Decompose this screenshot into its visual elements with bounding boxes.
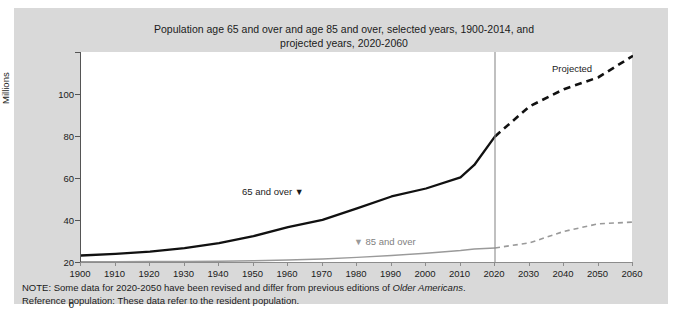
y-axis-title: Millions <box>0 72 11 104</box>
chart-title-line-1: Population age 65 and over and age 85 an… <box>154 23 534 35</box>
series-line-85-and-over-projected <box>495 222 633 248</box>
plot-area <box>80 52 632 262</box>
chart-title: Population age 65 and over and age 85 an… <box>74 22 614 50</box>
y-axis-tick-mark <box>75 220 80 221</box>
x-axis-tick-mark <box>184 262 185 266</box>
triangle-down-icon: ▼ <box>295 187 304 197</box>
x-axis-tick-mark <box>218 262 219 266</box>
x-axis-tick-mark <box>494 262 495 266</box>
y-axis-tick-mark <box>75 136 80 137</box>
x-axis-tick-mark <box>598 262 599 266</box>
x-axis-tick-mark <box>115 262 116 266</box>
chart-plot-svg <box>81 52 633 262</box>
y-axis-tick-label: 20 <box>44 257 74 268</box>
chart-notes: NOTE: Some data for 2020-2050 have been … <box>22 282 662 307</box>
y-axis-tick-label: 100 <box>44 89 74 100</box>
series-annotation-85-and-over: ▼ 85 and over <box>354 236 416 247</box>
x-axis-tick-mark <box>322 262 323 266</box>
x-axis-tick-mark <box>356 262 357 266</box>
x-axis-tick-label: 2060 <box>612 268 652 279</box>
x-axis-tick-mark <box>425 262 426 266</box>
series-layer <box>81 56 633 262</box>
projected-region-label: Projected <box>552 63 592 74</box>
y-axis-tick-labels: 020406080100 <box>44 52 74 262</box>
note-line-1-prefix: NOTE: Some data for 2020-2050 have been … <box>22 282 393 293</box>
x-axis-tick-mark <box>287 262 288 266</box>
series-annotation-65-label: 65 and over <box>242 186 292 197</box>
triangle-down-icon: ▼ <box>354 237 363 247</box>
x-axis-tick-mark <box>529 262 530 266</box>
y-axis-tick-mark <box>75 52 80 53</box>
chart-figure: Population age 65 and over and age 85 an… <box>14 8 668 304</box>
note-line-1-publication: Older Americans <box>393 282 463 293</box>
x-axis-tick-mark <box>391 262 392 266</box>
y-axis-tick-mark <box>75 94 80 95</box>
note-line-2: Reference population: These data refer t… <box>22 295 662 308</box>
x-axis-tick-mark <box>460 262 461 266</box>
series-line-85-and-over <box>81 248 495 262</box>
chart-title-line-2: projected years, 2020-2060 <box>280 37 408 49</box>
y-axis-tick-label: 60 <box>44 173 74 184</box>
note-line-1: NOTE: Some data for 2020-2050 have been … <box>22 282 662 295</box>
y-axis-tick-mark <box>75 178 80 179</box>
y-axis-tick-mark <box>75 262 80 263</box>
x-axis-tick-mark <box>80 262 81 266</box>
x-axis-tick-mark <box>563 262 564 266</box>
note-line-1-suffix: . <box>463 282 466 293</box>
y-axis-tick-label: 40 <box>44 215 74 226</box>
x-axis-tick-mark <box>253 262 254 266</box>
y-axis-tick-label: 80 <box>44 131 74 142</box>
series-annotation-85-label: 85 and over <box>366 236 416 247</box>
x-axis-tick-mark <box>632 262 633 266</box>
series-annotation-65-and-over: 65 and over ▼ <box>242 186 304 197</box>
x-axis-tick-mark <box>149 262 150 266</box>
